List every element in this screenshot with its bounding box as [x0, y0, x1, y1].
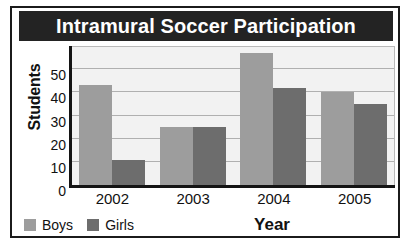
- plot-frame: [69, 46, 395, 188]
- legend: BoysGirls: [24, 217, 134, 233]
- bar-girls-2004: [273, 88, 306, 185]
- legend-item-girls: Girls: [87, 217, 134, 233]
- legend-swatch-icon: [24, 219, 36, 231]
- y-axis-tick-label: 20: [50, 138, 66, 152]
- legend-label: Boys: [42, 217, 73, 233]
- x-axis-tick-label: 2005: [314, 190, 395, 207]
- x-axis-tick-label: 2003: [153, 190, 234, 207]
- bar-group: [153, 47, 234, 185]
- bar-girls-2005: [354, 104, 387, 185]
- chart-figure: Intramural Soccer Participation Students…: [10, 6, 400, 238]
- legend-swatch-icon: [87, 219, 99, 231]
- bar-girls-2002: [112, 160, 145, 185]
- bar-boys-2003: [160, 127, 193, 185]
- chart-title-bar: Intramural Soccer Participation: [19, 11, 393, 41]
- bar-group: [72, 47, 153, 185]
- y-axis-tick-label: 10: [50, 161, 66, 175]
- legend-item-boys: Boys: [24, 217, 73, 233]
- x-axis-label: Year: [202, 215, 342, 235]
- bar-boys-2005: [321, 92, 354, 185]
- bar-group: [314, 47, 395, 185]
- plot-background: [72, 46, 395, 185]
- bar-boys-2002: [79, 85, 112, 185]
- x-axis-tick-label: 2002: [72, 190, 153, 207]
- chart-title: Intramural Soccer Participation: [56, 15, 356, 38]
- y-axis-tick-label: 0: [58, 184, 66, 198]
- bar-groups: [72, 47, 394, 185]
- y-axis-ticks: 50403020100: [40, 52, 66, 186]
- legend-label: Girls: [105, 217, 134, 233]
- y-axis-tick-label: 50: [50, 68, 66, 82]
- bar-boys-2004: [240, 53, 273, 185]
- y-axis-tick-label: 30: [50, 115, 66, 129]
- chart-footer: BoysGirls Year: [12, 215, 398, 239]
- x-axis-ticks: 2002200320042005: [72, 190, 395, 207]
- y-axis-tick-label: 40: [50, 91, 66, 105]
- chart-plot-region: Students 50403020100 2002200320042005 Bo…: [12, 44, 398, 236]
- bar-group: [233, 47, 314, 185]
- x-axis-tick-label: 2004: [234, 190, 315, 207]
- bar-girls-2003: [193, 127, 226, 185]
